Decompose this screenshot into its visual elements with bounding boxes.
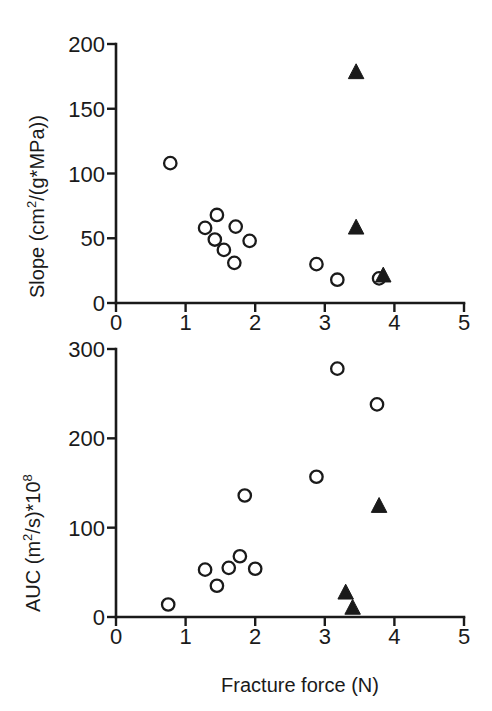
y-axis-title: AUC (m2/s)*108 — [20, 474, 44, 612]
data-point-open-circle — [310, 258, 322, 270]
y-tick-label-200: 200 — [68, 32, 105, 57]
x-tick-label-3: 3 — [319, 624, 331, 649]
series-open-circle — [164, 157, 385, 286]
y-tick-label-200: 200 — [68, 426, 105, 451]
axes-group: 012345050100150200 — [68, 32, 470, 335]
data-point-open-circle — [162, 598, 174, 610]
data-point-open-circle — [331, 273, 343, 285]
x-axis-title: Fracture force (N) — [221, 674, 379, 696]
y-tick-label-300: 300 — [68, 340, 105, 362]
y-tick-label-0: 0 — [93, 291, 105, 316]
x-tick-label-5: 5 — [458, 310, 470, 335]
x-tick-label-2: 2 — [249, 310, 261, 335]
data-point-open-circle — [234, 550, 246, 562]
data-point-open-circle — [230, 220, 242, 232]
data-point-open-circle — [249, 563, 261, 575]
x-tick-label-4: 4 — [388, 624, 400, 649]
y-tick-label-50: 50 — [81, 226, 105, 251]
data-point-filled-triangle — [348, 64, 364, 79]
data-point-open-circle — [371, 398, 383, 410]
data-point-open-circle — [218, 244, 230, 256]
data-point-open-circle — [199, 563, 211, 575]
data-point-open-circle — [199, 222, 211, 234]
data-point-open-circle — [331, 362, 343, 374]
x-tick-label-3: 3 — [319, 310, 331, 335]
y-tick-label-100: 100 — [68, 162, 105, 187]
x-tick-label-5: 5 — [458, 624, 470, 649]
data-points-group — [164, 64, 391, 286]
y-tick-label-0: 0 — [93, 605, 105, 630]
series-filled-triangle — [338, 498, 387, 615]
data-point-open-circle — [223, 562, 235, 574]
panel-auc: 0123450100200300AUC (m2/s)*108Fracture f… — [0, 340, 492, 711]
series-filled-triangle — [348, 64, 391, 282]
x-tick-label-0: 0 — [110, 624, 122, 649]
data-point-open-circle — [211, 209, 223, 221]
panel-slope: 012345050100150200Slope (cm2/(g*MPa)) — [0, 0, 492, 355]
y-axis-title: Slope (cm2/(g*MPa)) — [24, 115, 48, 298]
y-tick-label-150: 150 — [68, 97, 105, 122]
data-point-filled-triangle — [338, 584, 354, 599]
data-point-open-circle — [211, 580, 223, 592]
data-point-filled-triangle — [348, 219, 364, 234]
x-tick-label-1: 1 — [179, 624, 191, 649]
data-point-open-circle — [209, 233, 221, 245]
figure-root: 012345050100150200Slope (cm2/(g*MPa)) 01… — [0, 0, 492, 711]
x-tick-label-1: 1 — [179, 310, 191, 335]
y-tick-label-100: 100 — [68, 516, 105, 541]
x-tick-label-4: 4 — [388, 310, 400, 335]
axes-group: 0123450100200300 — [68, 340, 470, 649]
data-point-open-circle — [310, 471, 322, 483]
data-point-filled-triangle — [345, 599, 361, 614]
data-point-open-circle — [243, 235, 255, 247]
data-points-group — [162, 362, 387, 614]
panel-auc-plot-area: 0123450100200300AUC (m2/s)*108Fracture f… — [0, 340, 492, 711]
data-point-open-circle — [164, 157, 176, 169]
data-point-open-circle — [239, 489, 251, 501]
data-point-open-circle — [228, 257, 240, 269]
x-tick-label-0: 0 — [110, 310, 122, 335]
panel-slope-plot-area: 012345050100150200Slope (cm2/(g*MPa)) — [0, 0, 492, 355]
x-tick-label-2: 2 — [249, 624, 261, 649]
series-open-circle — [162, 362, 383, 610]
data-point-filled-triangle — [371, 498, 387, 513]
